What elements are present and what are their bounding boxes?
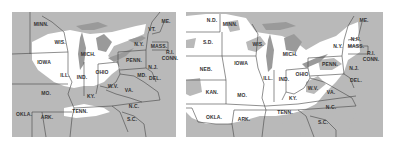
state-label: ME. (359, 17, 368, 23)
state-label: KAN. (206, 89, 219, 95)
state-label: MASS. (151, 43, 167, 49)
state-label: OHIO (295, 71, 308, 77)
state-label: IOWA (37, 59, 51, 65)
labels-left: MINN.WIS.MICH.N.Y.VT.ME.MASS.R.I.CONN.IO… (12, 12, 176, 137)
state-label: N.D. (207, 17, 217, 23)
state-label: VA. (327, 89, 335, 95)
state-label: W.V. (108, 83, 119, 89)
state-label: MO. (237, 92, 247, 98)
state-label: PENN. (322, 61, 338, 67)
state-label: NEB. (200, 66, 212, 72)
state-label: ARK. (238, 116, 251, 122)
state-label: N.H. (351, 36, 361, 42)
state-label: DEL. (149, 75, 161, 81)
state-label: N.J. (349, 65, 359, 71)
state-label: MO. (41, 90, 51, 96)
state-label: MD. (137, 72, 146, 78)
state-label: N.C. (129, 103, 139, 109)
state-label: VT. (148, 26, 156, 32)
state-label: ME. (161, 18, 170, 24)
state-label: N.J. (148, 64, 158, 70)
state-label: MASS. (348, 43, 364, 49)
state-label: N.C. (326, 104, 336, 110)
state-label: N.Y. (333, 43, 343, 49)
state-label: KY. (87, 93, 95, 99)
labels-right: N.D.MINN.S.D.WIS.MICH.N.Y.ME.N.H.MASS.R.… (186, 12, 383, 137)
state-label: OHIO (95, 69, 108, 75)
state-label: S.C. (318, 119, 328, 125)
state-label: MICH. (81, 51, 96, 57)
state-label: ARK. (41, 114, 54, 120)
state-label: WIS. (252, 41, 263, 47)
state-label: IND. (77, 74, 87, 80)
state-label: PENN. (126, 57, 142, 63)
state-label: TENN. (72, 108, 88, 114)
state-label: CONN. (162, 55, 179, 61)
state-label: WIS. (54, 39, 65, 45)
state-label: MICH. (283, 51, 298, 57)
state-label: ILL. (263, 75, 272, 81)
state-label: W.V. (308, 85, 319, 91)
state-label: S.C. (127, 116, 137, 122)
state-label: TENN. (277, 109, 293, 115)
state-label: IND. (279, 76, 289, 82)
state-label: IOWA (234, 60, 248, 66)
state-label: MINN. (223, 21, 238, 27)
state-label: OKLA. (16, 111, 32, 117)
state-label: DEL. (350, 77, 362, 83)
state-label: KY. (289, 95, 297, 101)
state-label: N.Y. (134, 41, 144, 47)
state-label: OKLA. (206, 114, 222, 120)
state-label: MINN. (34, 21, 49, 27)
state-label: CONN. (363, 56, 380, 62)
state-label: S.D. (203, 39, 213, 45)
state-label: ILL. (60, 72, 69, 78)
state-label: VA. (125, 87, 133, 93)
